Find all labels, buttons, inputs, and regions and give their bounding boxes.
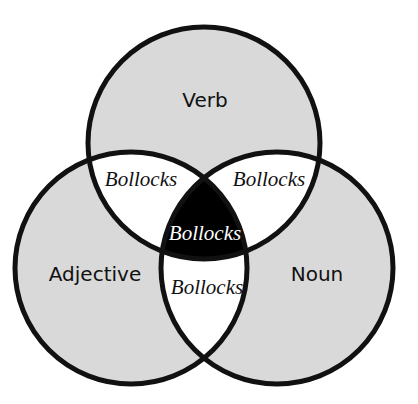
venn-diagram: Verb Adjective Noun Bollocks Bollocks Bo… <box>0 0 418 404</box>
set-label-verb: Verb <box>182 88 227 112</box>
region-label-verb-adjective: Bollocks <box>105 167 177 191</box>
set-label-noun: Noun <box>291 262 344 286</box>
region-label-all-three: Bollocks <box>169 221 241 245</box>
region-label-verb-noun: Bollocks <box>233 167 305 191</box>
region-label-adjective-noun: Bollocks <box>171 275 243 299</box>
set-label-adjective: Adjective <box>49 262 141 286</box>
